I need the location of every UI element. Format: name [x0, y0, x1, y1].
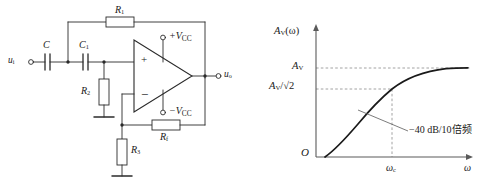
xtick-label-omega-c: ωc — [386, 163, 396, 174]
circuit-schematic-panel: + − ui C C1 R1 R2 R3 Rf +VCC −VCC uo — [0, 0, 240, 189]
resistor-R1-body — [106, 17, 134, 27]
label-supply-negative: −VCC — [169, 106, 192, 117]
frequency-response-panel: AV(ω) AV AV/√2 O ωc ω −40 dB/10倍频 — [240, 0, 481, 189]
resistor-Rf-body — [152, 120, 180, 130]
label-resistor-R2: R2 — [81, 86, 90, 97]
label-output-voltage: uo — [224, 70, 232, 80]
x-axis-label: ω — [464, 163, 471, 173]
figure-canvas: + − ui C C1 R1 R2 R3 Rf +VCC −VCC uo — [0, 0, 481, 189]
label-resistor-R3: R3 — [131, 145, 140, 156]
y-axis-label: AV(ω) — [274, 26, 299, 37]
resistor-R2-body — [99, 79, 109, 105]
slope-annotation: −40 dB/10倍频 — [409, 125, 472, 135]
amplitude-response-curve — [325, 68, 468, 157]
x-axis-arrowhead — [466, 154, 473, 160]
circuit-svg: + − — [0, 0, 240, 189]
label-resistor-R1: R1 — [115, 5, 124, 16]
output-terminal-node — [216, 74, 221, 79]
origin-label: O — [301, 147, 309, 158]
label-capacitor-C1: C1 — [79, 40, 89, 51]
y-axis-arrowhead — [313, 24, 319, 31]
supply-positive-terminal — [161, 35, 166, 40]
supply-negative-terminal — [161, 110, 166, 115]
ytick-label-Av: AV — [292, 61, 303, 72]
opamp-noninverting-sign: + — [141, 53, 147, 65]
resistor-R3-body — [117, 139, 127, 165]
input-terminal-node — [29, 60, 34, 65]
label-resistor-Rf: Rf — [160, 132, 168, 143]
label-capacitor-C: C — [43, 40, 50, 50]
ytick-label-Av-over-root2: AV/√2 — [269, 81, 294, 92]
label-supply-positive: +VCC — [169, 31, 192, 42]
opamp-inverting-sign: − — [141, 87, 148, 102]
annotation-leader-line — [358, 110, 408, 131]
label-input-voltage: ui — [8, 56, 14, 66]
